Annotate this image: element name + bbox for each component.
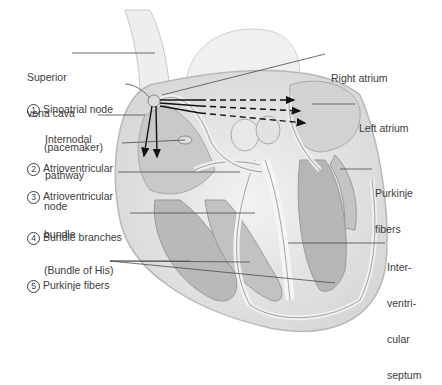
label-line: fibers xyxy=(375,223,413,235)
step-number-icon: 3 xyxy=(27,191,40,204)
label-left-atrium: Left atrium xyxy=(359,98,409,158)
label-line: septum xyxy=(387,369,421,381)
label-purkinje-fibers-left: 5Purkinje fibers xyxy=(27,255,110,317)
label-line: Purkinje xyxy=(375,187,413,199)
step-number-icon: 1 xyxy=(27,104,40,117)
step-number-icon: 4 xyxy=(27,232,40,245)
sa-node xyxy=(148,95,160,107)
label-line: Bundle branches xyxy=(43,231,122,243)
step-number-icon: 5 xyxy=(27,280,40,293)
label-line: Purkinje fibers xyxy=(43,279,110,291)
label-line: Right atrium xyxy=(331,72,388,84)
label-line: ventri- xyxy=(387,297,421,309)
label-line: Inter- xyxy=(387,261,421,273)
label-interventricular-septum: Inter- ventri- cular septum xyxy=(387,237,421,385)
label-line: cular xyxy=(387,333,421,345)
label-line: Left atrium xyxy=(359,122,409,134)
label-line: Atrioventricular xyxy=(43,190,113,202)
